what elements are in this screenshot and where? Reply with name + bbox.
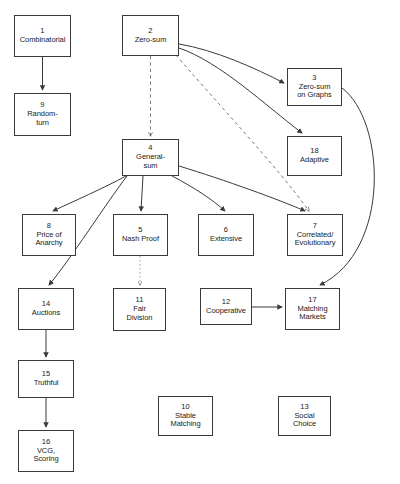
diagram-canvas: 1Combinatorial2Zero-sum3Zero-sum on Grap… (0, 0, 400, 484)
node-5[interactable]: 5Nash Proof (113, 214, 168, 256)
node-7-label: Correlated/ Evolutionary (295, 231, 336, 249)
node-18-label: Adaptive (300, 156, 329, 165)
node-6-label: Extensive (210, 235, 242, 244)
node-4[interactable]: 4General- sum (122, 139, 179, 176)
node-2-label: Zero-sum (135, 36, 167, 45)
node-8-label: Price of Anarchy (35, 231, 62, 249)
node-16[interactable]: 16VCG, Scoring (18, 430, 74, 472)
node-1-label: Combinatorial (20, 36, 66, 45)
node-17-label: Matching Markets (297, 305, 327, 323)
node-8[interactable]: 8Price of Anarchy (22, 214, 76, 256)
node-12-label: Cooperative (206, 307, 246, 316)
edge-2-to-18 (179, 48, 302, 133)
node-15[interactable]: 15Truthful (18, 360, 74, 398)
node-9-label: Random- turn (27, 110, 58, 128)
node-4-label: General- sum (136, 153, 165, 171)
node-7[interactable]: 7Correlated/ Evolutionary (287, 214, 343, 256)
node-18[interactable]: 18Adaptive (287, 136, 342, 176)
node-12[interactable]: 12Cooperative (200, 288, 252, 325)
node-16-label: VCG, Scoring (33, 447, 58, 465)
node-10-label: Stable Matching (170, 412, 200, 430)
node-3[interactable]: 3Zero-sum on Graphs (287, 68, 342, 106)
edge-4-to-5 (141, 176, 143, 211)
node-9[interactable]: 9Random- turn (14, 93, 71, 136)
node-3-label: Zero-sum on Graphs (297, 83, 332, 101)
edge-4-to-8 (53, 176, 126, 211)
node-6[interactable]: 6Extensive (198, 214, 254, 256)
node-15-label: Truthful (34, 379, 59, 388)
node-5-label: Nash Proof (122, 235, 159, 244)
node-1[interactable]: 1Combinatorial (14, 15, 71, 57)
node-13-label: Social Choice (293, 412, 316, 430)
node-11-label: Fair Division (127, 305, 153, 323)
node-13[interactable]: 13Social Choice (278, 396, 331, 436)
node-14-label: Auctions (32, 309, 60, 318)
node-14[interactable]: 14Auctions (18, 288, 74, 330)
node-11[interactable]: 11Fair Division (113, 288, 166, 331)
node-10[interactable]: 10Stable Matching (158, 396, 213, 436)
node-2[interactable]: 2Zero-sum (122, 15, 179, 56)
edge-4-to-6 (172, 176, 225, 211)
node-17[interactable]: 17Matching Markets (285, 288, 340, 330)
